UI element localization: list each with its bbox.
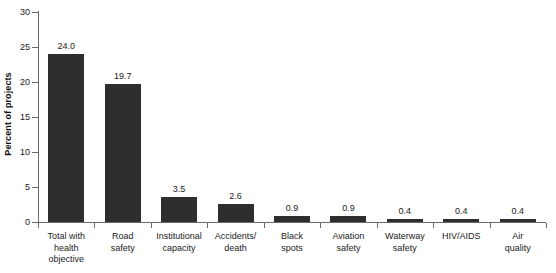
bar	[48, 54, 84, 222]
bar	[500, 219, 536, 222]
category-label-line: safety	[371, 243, 439, 255]
category-label-line: Air	[484, 231, 552, 243]
y-axis-tick	[32, 47, 38, 48]
category-label-line: objective	[32, 254, 100, 266]
bar	[443, 219, 479, 222]
x-axis-tick	[151, 223, 152, 228]
bar-value-label: 0.9	[323, 203, 373, 213]
y-axis-tick-label: 10	[0, 147, 30, 157]
bar-value-label: 0.4	[380, 206, 430, 216]
bar-value-label: 19.7	[98, 71, 148, 81]
y-axis-tick	[32, 187, 38, 188]
bar	[274, 216, 310, 222]
x-axis-tick	[264, 223, 265, 228]
y-axis-tick-label: 5	[0, 182, 30, 192]
x-axis-line	[38, 222, 546, 223]
y-axis-tick-label: 0	[0, 217, 30, 227]
bar	[218, 204, 254, 222]
x-axis-tick	[320, 223, 321, 228]
x-axis-tick	[490, 223, 491, 228]
y-axis-tick	[32, 117, 38, 118]
x-axis-tick	[377, 223, 378, 228]
y-axis-tick-label: 15	[0, 112, 30, 122]
bar-chart: Percent of projects 051015202530 24.019.…	[0, 0, 556, 273]
bar	[330, 216, 366, 222]
bar	[387, 219, 423, 222]
y-axis-tick-label: 25	[0, 42, 30, 52]
bar-value-label: 24.0	[41, 41, 91, 51]
y-axis-tick	[32, 82, 38, 83]
category-label-line: quality	[484, 243, 552, 255]
y-axis-line	[38, 11, 39, 223]
bar-value-label: 0.4	[436, 206, 486, 216]
x-axis-tick	[546, 223, 547, 228]
y-axis-tick-label: 30	[0, 7, 30, 17]
bar-value-label: 0.9	[267, 203, 317, 213]
bar-value-label: 3.5	[154, 184, 204, 194]
x-axis-category-label: Airquality	[484, 231, 552, 254]
y-axis-tick	[32, 12, 38, 13]
y-axis-tick-label: 20	[0, 77, 30, 87]
bar-value-label: 2.6	[211, 191, 261, 201]
bar	[161, 197, 197, 222]
x-axis-tick	[94, 223, 95, 228]
x-axis-tick	[207, 223, 208, 228]
bar	[105, 84, 141, 222]
x-axis-tick	[433, 223, 434, 228]
bar-value-label: 0.4	[493, 206, 543, 216]
y-axis-tick	[32, 152, 38, 153]
x-axis-tick	[38, 223, 39, 228]
